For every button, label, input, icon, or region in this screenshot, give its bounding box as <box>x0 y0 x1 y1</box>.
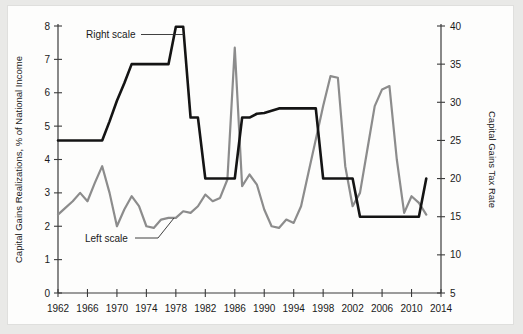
chart-figure: 012345678Capital Gains Realizations, % o… <box>0 0 523 334</box>
right-axis-tick-label: 20 <box>450 173 462 184</box>
left-axis-title: Capital Gains Realizations, % of Nationa… <box>13 56 24 263</box>
right-axis-tick-label: 10 <box>450 249 462 260</box>
x-axis-tick-label: 1994 <box>283 303 306 314</box>
right-axis-tick-label: 5 <box>450 288 456 299</box>
left-axis-tick-label: 7 <box>44 54 50 65</box>
left-axis-tick-label: 4 <box>44 154 50 165</box>
x-axis-tick-label: 1962 <box>47 303 70 314</box>
x-axis-tick-label: 1966 <box>76 303 99 314</box>
right-axis-tick-label: 35 <box>450 59 462 70</box>
x-axis-tick-label: 1970 <box>106 303 129 314</box>
x-axis-tick-label: 2006 <box>371 303 394 314</box>
x-axis-tick-label: 1990 <box>253 303 276 314</box>
left-axis-tick-label: 2 <box>44 221 50 232</box>
series-line-left <box>58 48 426 228</box>
left-scale-annotation-label: Left scale <box>85 233 128 244</box>
left-axis-tick-label: 6 <box>44 87 50 98</box>
right-axis-tick-label: 30 <box>450 97 462 108</box>
right-scale-annotation-label: Right scale <box>86 29 136 40</box>
x-axis-tick-label: 1982 <box>194 303 217 314</box>
chart-plate: 012345678Capital Gains Realizations, % o… <box>8 6 513 324</box>
x-axis-tick-label: 1998 <box>312 303 335 314</box>
capital-gains-chart: 012345678Capital Gains Realizations, % o… <box>8 6 513 324</box>
x-axis-tick-label: 1986 <box>224 303 247 314</box>
x-axis-tick-label: 2002 <box>341 303 364 314</box>
left-axis-tick-label: 8 <box>44 21 50 32</box>
right-axis-tick-label: 40 <box>450 21 462 32</box>
x-axis-tick-label: 2014 <box>430 303 453 314</box>
x-axis-tick-label: 1978 <box>165 303 188 314</box>
left-axis-tick-label: 5 <box>44 121 50 132</box>
x-axis-tick-label: 1974 <box>135 303 158 314</box>
right-axis-tick-label: 25 <box>450 135 462 146</box>
right-axis-title: Capital Gains Tax Rate <box>487 111 498 208</box>
left-axis-tick-label: 1 <box>44 254 50 265</box>
x-axis-tick-label: 2010 <box>400 303 423 314</box>
left-axis-tick-label: 3 <box>44 187 50 198</box>
right-axis-tick-label: 15 <box>450 211 462 222</box>
left-axis-tick-label: 0 <box>44 288 50 299</box>
